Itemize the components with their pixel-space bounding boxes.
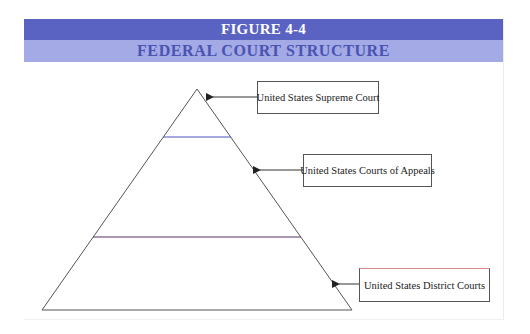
pyramid-outline <box>42 89 352 310</box>
courts-of-appeals-text: United States Courts of Appeals <box>300 165 435 176</box>
supreme-court-label: United States Supreme Court <box>257 81 379 114</box>
courts-of-appeals-label: United States Courts of Appeals <box>303 154 432 187</box>
supreme-court-text: United States Supreme Court <box>257 92 380 103</box>
district-courts-label: United States District Courts <box>359 268 490 302</box>
district-courts-text: United States District Courts <box>364 280 485 291</box>
